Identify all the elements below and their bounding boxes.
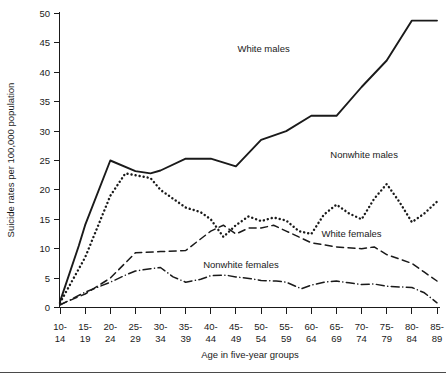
x-tick-label-bottom: 49 [231,333,242,344]
y-tick-label: 15 [39,214,50,225]
x-tick-label-top: 25- [129,321,143,332]
x-tick-label-top: 10- [53,321,67,332]
x-axis-tick-labels: 10-1415-1920-2425-2930-3435-3940-4445-49… [53,321,444,344]
y-tick-label: 10 [39,243,50,254]
x-tick-label-top: 70- [355,321,369,332]
x-axis-ticks [60,308,437,315]
y-tick-label: 30 [39,126,50,137]
y-tick-label: 40 [39,67,50,78]
x-tick-label-top: 60- [304,321,318,332]
x-tick-label-top: 20- [103,321,117,332]
x-tick-label-top: 65- [330,321,344,332]
x-tick-label-top: 15- [78,321,92,332]
x-tick-label-top: 75- [380,321,394,332]
series-label-nonwhite-males: Nonwhite males [330,149,398,160]
x-tick-label-bottom: 79 [381,333,392,344]
x-tick-label-top: 85- [430,321,444,332]
x-tick-label-bottom: 69 [331,333,342,344]
x-tick-label-bottom: 39 [180,333,191,344]
y-tick-label: 45 [39,37,50,48]
x-tick-label-top: 80- [405,321,419,332]
x-tick-label-bottom: 64 [306,333,317,344]
x-tick-label-bottom: 34 [155,333,166,344]
y-axis-title: Suicide rates per 100,000 population [5,83,16,238]
y-tick-label: 35 [39,96,50,107]
x-axis-title: Age in five-year groups [201,349,299,360]
y-tick-label: 25 [39,155,50,166]
x-tick-label-top: 45- [229,321,243,332]
y-axis-ticks: 05101520253035404550 [39,8,60,313]
x-tick-label-bottom: 44 [206,333,217,344]
y-tick-label: 50 [39,8,50,19]
x-tick-label-bottom: 14 [55,333,66,344]
y-tick-label: 5 [45,273,50,284]
y-tick-label: 20 [39,184,50,195]
x-tick-label-bottom: 59 [281,333,292,344]
series-label-white-males: White males [237,43,290,54]
x-tick-label-bottom: 54 [256,333,267,344]
x-tick-label-bottom: 84 [407,333,418,344]
line-chart: Suicide rates per 100,000 population 051… [0,0,446,380]
x-tick-label-bottom: 29 [130,333,141,344]
suicide-rates-figure: Suicide rates per 100,000 population 051… [0,0,446,380]
x-tick-label-top: 30- [154,321,168,332]
x-tick-label-top: 40- [204,321,218,332]
x-tick-label-bottom: 89 [432,333,443,344]
x-tick-label-top: 50- [254,321,268,332]
x-tick-label-top: 35- [179,321,193,332]
series-nonwhite-females [60,268,437,306]
y-tick-label: 0 [45,302,50,313]
x-tick-label-bottom: 19 [80,333,91,344]
series-label-white-females: White females [321,228,381,239]
x-tick-label-bottom: 24 [105,333,116,344]
x-tick-label-top: 55- [279,321,293,332]
series-label-nonwhite-females: Nonwhite females [203,259,279,270]
x-tick-label-bottom: 74 [356,333,367,344]
series-annotations: White malesNonwhite malesWhite femalesNo… [203,43,398,270]
